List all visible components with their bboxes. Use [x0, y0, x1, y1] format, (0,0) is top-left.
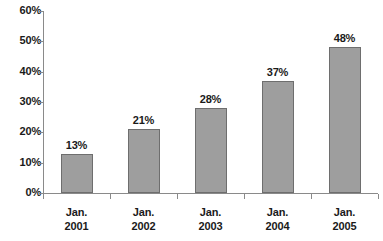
y-axis-tick-label: 40% [1, 65, 41, 78]
x-axis-category-label: Jan.2003 [177, 205, 244, 233]
bar-value-label: 37% [248, 66, 308, 78]
bar[interactable] [262, 81, 294, 193]
x-axis-tick-mark [177, 194, 178, 199]
y-axis-tick-label: 0% [1, 186, 41, 199]
category-label-year: 2003 [177, 219, 244, 233]
x-axis-tick-mark [311, 194, 312, 199]
bar-group: 21% [128, 11, 160, 193]
bar[interactable] [128, 129, 160, 193]
y-axis-tick-label: 50% [1, 34, 41, 47]
x-axis-line [43, 193, 378, 194]
bar-value-label: 28% [181, 93, 241, 105]
category-label-month: Jan. [43, 205, 110, 219]
x-axis-category-label: Jan.2001 [43, 205, 110, 233]
plot-area: 13%21%28%37%48% [43, 11, 378, 193]
x-axis-tick-mark [244, 194, 245, 199]
x-axis-tick-mark [378, 194, 379, 199]
category-label-month: Jan. [177, 205, 244, 219]
x-axis-tick-mark [110, 194, 111, 199]
y-axis-tick-label: 20% [1, 125, 41, 138]
category-label-month: Jan. [110, 205, 177, 219]
y-axis-tick-label: 30% [1, 95, 41, 108]
category-label-year: 2002 [110, 219, 177, 233]
category-label-year: 2005 [311, 219, 378, 233]
bar-group: 48% [329, 11, 361, 193]
bar-chart: 0%10%20%30%40%50%60% 13%21%28%37%48% Jan… [0, 0, 383, 241]
bar[interactable] [329, 47, 361, 193]
bar-value-label: 13% [47, 139, 107, 151]
x-axis-category-label: Jan.2005 [311, 205, 378, 233]
bar-group: 13% [61, 11, 93, 193]
x-axis-category-label: Jan.2004 [244, 205, 311, 233]
bar-group: 28% [195, 11, 227, 193]
bar[interactable] [195, 108, 227, 193]
category-label-year: 2001 [43, 219, 110, 233]
bar[interactable] [61, 154, 93, 193]
category-label-year: 2004 [244, 219, 311, 233]
category-label-month: Jan. [311, 205, 378, 219]
y-axis-tick-label: 10% [1, 156, 41, 169]
y-axis-tick-label: 60% [1, 4, 41, 17]
bar-value-label: 21% [114, 114, 174, 126]
x-axis-tick-mark [43, 194, 44, 199]
category-label-month: Jan. [244, 205, 311, 219]
bar-group: 37% [262, 11, 294, 193]
bar-value-label: 48% [315, 32, 375, 44]
x-axis-category-label: Jan.2002 [110, 205, 177, 233]
